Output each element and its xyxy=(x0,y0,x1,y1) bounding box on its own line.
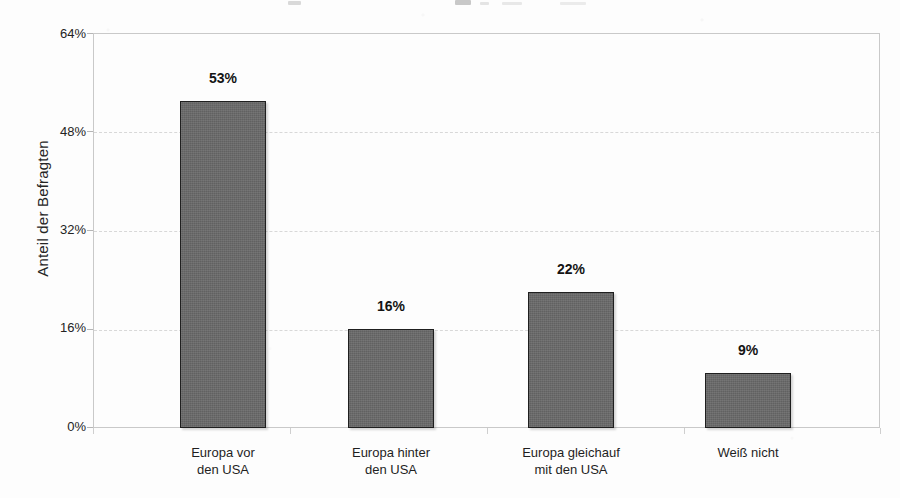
bar-value-label-1: 53% xyxy=(180,70,266,86)
y-tick-mark-0 xyxy=(87,427,93,428)
y-tick-label-0: 0% xyxy=(28,419,86,434)
y-tick-label-32: 32% xyxy=(28,222,86,237)
bar-europa-hinter-den-usa[interactable] xyxy=(348,329,434,428)
y-tick-label-64: 64% xyxy=(28,26,86,41)
y-tick-mark-48 xyxy=(87,131,93,132)
x-axis-label-line1: Europa hinter xyxy=(311,444,471,461)
x-axis-label-line1: Europa vor xyxy=(143,444,303,461)
chart-screenshot: Anteil der Befragten 64% 48% 32% 16% 0% … xyxy=(0,0,900,498)
x-tick-mark-2 xyxy=(487,428,488,434)
x-axis-label-line1: Weiß nicht xyxy=(668,444,828,461)
x-axis-label-europa-hinter-den-usa: Europa hinter den USA xyxy=(311,444,471,478)
x-axis-label-line2: den USA xyxy=(311,461,471,478)
x-axis-label-weiss-nicht: Weiß nicht xyxy=(668,444,828,461)
x-tick-mark-1 xyxy=(290,428,291,434)
y-tick-mark-32 xyxy=(87,230,93,231)
x-axis-label-europa-vor-den-usa: Europa vor den USA xyxy=(143,444,303,478)
bar-weiss-nicht[interactable] xyxy=(705,373,791,428)
x-tick-mark-0 xyxy=(93,428,94,434)
x-tick-mark-3 xyxy=(684,428,685,434)
y-tick-label-16: 16% xyxy=(28,320,86,335)
bar-europa-gleichauf-mit-den-usa[interactable] xyxy=(528,292,614,428)
cropped-title-remnant xyxy=(150,0,750,7)
y-tick-label-48: 48% xyxy=(28,124,86,139)
x-tick-mark-4 xyxy=(880,428,881,434)
bar-value-label-3: 22% xyxy=(528,261,614,277)
bar-value-label-2: 16% xyxy=(348,298,434,314)
bar-europa-vor-den-usa[interactable] xyxy=(180,101,266,428)
y-tick-mark-64 xyxy=(87,33,93,34)
x-axis-label-line2: mit den USA xyxy=(490,461,652,478)
y-tick-mark-16 xyxy=(87,329,93,330)
x-axis-label-line2: den USA xyxy=(143,461,303,478)
x-axis-label-line1: Europa gleichauf xyxy=(490,444,652,461)
x-axis-label-europa-gleichauf-mit-den-usa: Europa gleichauf mit den USA xyxy=(490,444,652,478)
y-axis-title: Anteil der Befragten xyxy=(34,79,51,339)
bar-value-label-4: 9% xyxy=(705,342,791,358)
